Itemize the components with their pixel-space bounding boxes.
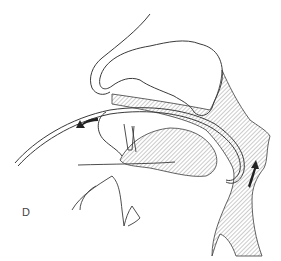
panel-label: D bbox=[22, 206, 30, 218]
anatomy-drawing bbox=[0, 0, 281, 261]
medical-illustration: D bbox=[0, 0, 281, 261]
upper-lip bbox=[98, 112, 122, 156]
tongue bbox=[120, 128, 217, 176]
chin bbox=[80, 186, 96, 210]
